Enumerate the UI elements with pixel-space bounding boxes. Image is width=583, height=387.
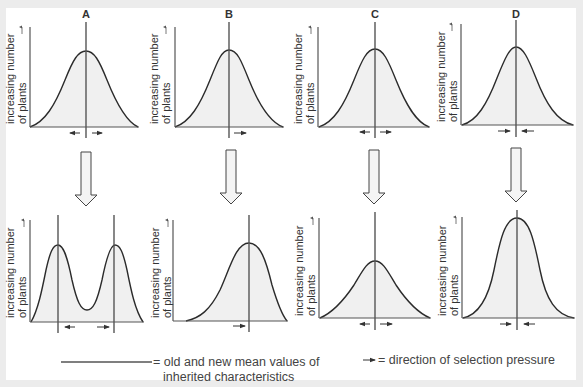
y-axis-label-2: of plants	[304, 82, 316, 124]
y-axis-label: increasing number	[4, 227, 16, 318]
selection-diagram: A increasing number of plants B increasi…	[0, 0, 583, 387]
down-arrow-icon	[363, 150, 385, 204]
y-axis-label-2: of plants	[16, 276, 28, 318]
y-axis-label-2: of plants	[305, 274, 317, 316]
panel-b-top: B increasing number of plants	[148, 8, 284, 138]
y-axis-label-2: of plants	[161, 276, 173, 318]
y-axis-label: increasing number	[293, 225, 305, 316]
y-axis-label: increasing number	[149, 227, 161, 318]
down-arrow-icon	[75, 152, 97, 206]
y-axis-label-2: of plants	[447, 80, 459, 122]
panel-c-label: C	[371, 8, 379, 20]
panel-a-label: A	[82, 8, 90, 20]
y-axis-label: increasing number	[4, 33, 16, 124]
y-axis-label: increasing number	[436, 225, 448, 316]
transition-arrows	[75, 148, 527, 206]
y-axis-label: increasing number	[435, 31, 447, 122]
down-arrow-icon	[505, 148, 527, 202]
legend-arrow-text: = direction of selection pressure	[378, 353, 555, 368]
panel-d-bottom: increasing number of plants	[436, 210, 575, 330]
panel-b-label: B	[225, 8, 233, 20]
panel-d-top: D increasing number of plants	[435, 8, 574, 137]
down-arrow-icon	[220, 150, 242, 204]
panel-a-bottom: increasing number of plants	[4, 215, 144, 333]
y-axis-label: increasing number	[148, 33, 160, 124]
panel-d-label: D	[512, 8, 520, 20]
y-axis-label-2: of plants	[160, 82, 172, 124]
legend-mean-text-2: inherited characteristics	[163, 370, 294, 385]
panel-c-bottom: increasing number of plants	[293, 212, 431, 330]
panel-a-top: A increasing number of plants	[4, 8, 139, 138]
y-axis-label-2: of plants	[448, 274, 460, 316]
panel-c-top: C increasing number of plants	[292, 8, 430, 138]
panel-b-bottom: increasing number of plants	[149, 215, 288, 332]
y-axis-label: increasing number	[292, 33, 304, 124]
y-axis-label-2: of plants	[16, 82, 28, 124]
legend-mean-text-1: = old and new mean values of	[153, 355, 319, 370]
